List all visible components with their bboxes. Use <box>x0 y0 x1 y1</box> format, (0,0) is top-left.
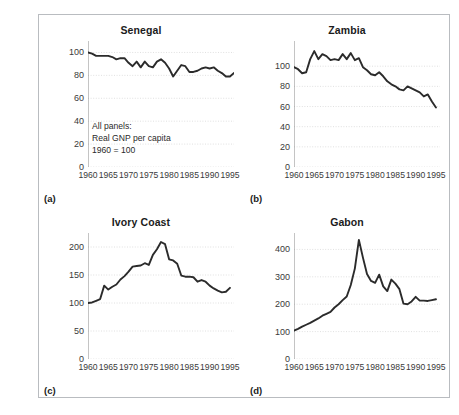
x-tick-label: 1960 <box>78 362 97 372</box>
panel-title-senegal: Senegal <box>38 24 244 36</box>
x-axis-labels-senegal: 19601965197019751980198519901995 <box>88 170 234 184</box>
panel-title-gabon: Gabon <box>244 216 450 228</box>
y-tick-label: 200 <box>58 242 84 252</box>
x-tick-label: 1995 <box>220 362 239 372</box>
y-tick-label: 100 <box>264 327 290 337</box>
x-tick-label: 1975 <box>139 170 158 180</box>
x-tick-label: 1985 <box>180 170 199 180</box>
y-axis-labels-zambia: 020406080100 <box>260 41 290 167</box>
x-tick-label: 1965 <box>305 170 324 180</box>
data-series-line <box>294 51 436 107</box>
panel-tag-a: (a) <box>44 193 56 204</box>
panel-ivory-coast: Ivory Coast 050100150200 196019651970197… <box>38 206 244 398</box>
y-tick-label: 60 <box>264 102 290 112</box>
x-tick-label: 1980 <box>366 170 385 180</box>
x-tick-label: 1975 <box>345 362 364 372</box>
x-tick-label: 1985 <box>180 362 199 372</box>
y-tick-label: 60 <box>58 93 84 103</box>
x-tick-label: 1960 <box>78 170 97 180</box>
panel-gabon: Gabon 0100200300400 19601965197019751980… <box>244 206 450 398</box>
x-tick-label: 1990 <box>200 362 219 372</box>
x-tick-label: 1980 <box>160 170 179 180</box>
y-tick-label: 400 <box>264 244 290 254</box>
x-tick-label: 1975 <box>139 362 158 372</box>
x-tick-label: 1960 <box>284 362 303 372</box>
x-tick-label: 1970 <box>325 170 344 180</box>
x-axis-labels-ivory-coast: 19601965197019751980198519901995 <box>88 362 234 376</box>
x-axis-labels-gabon: 19601965197019751980198519901995 <box>294 362 440 376</box>
x-tick-label: 1970 <box>119 170 138 180</box>
plot-area-ivory-coast <box>88 233 234 359</box>
y-tick-label: 40 <box>58 116 84 126</box>
x-tick-label: 1995 <box>220 170 239 180</box>
x-tick-label: 1965 <box>305 362 324 372</box>
y-tick-label: 20 <box>58 139 84 149</box>
x-tick-label: 1990 <box>406 362 425 372</box>
x-tick-label: 1995 <box>426 170 445 180</box>
x-tick-label: 1960 <box>284 170 303 180</box>
x-tick-label: 1980 <box>160 362 179 372</box>
x-tick-label: 1965 <box>99 362 118 372</box>
data-series-line <box>294 240 436 331</box>
x-tick-label: 1990 <box>200 170 219 180</box>
y-tick-label: 50 <box>58 326 84 336</box>
plot-area-gabon <box>294 233 440 359</box>
panel-zambia: Zambia 020406080100 19601965197019751980… <box>244 14 450 206</box>
panel-senegal: Senegal 020406080100 1960196519701975198… <box>38 14 244 206</box>
panel-annotation: All panels: Real GNP per capita 1960 = 1… <box>92 120 171 157</box>
x-tick-label: 1965 <box>99 170 118 180</box>
panel-title-ivory-coast: Ivory Coast <box>38 216 244 228</box>
data-series-line <box>88 52 234 76</box>
panel-title-zambia: Zambia <box>244 24 450 36</box>
x-tick-label: 1980 <box>366 362 385 372</box>
y-tick-label: 300 <box>264 272 290 282</box>
x-axis-labels-zambia: 19601965197019751980198519901995 <box>294 170 440 184</box>
figure-container: Senegal 020406080100 1960196519701975198… <box>0 0 459 415</box>
plot-area-zambia <box>294 41 440 167</box>
x-tick-label: 1970 <box>325 362 344 372</box>
panel-tag-c: (c) <box>44 385 56 396</box>
y-tick-label: 100 <box>58 47 84 57</box>
x-tick-label: 1995 <box>426 362 445 372</box>
x-tick-label: 1975 <box>345 170 364 180</box>
y-tick-label: 150 <box>58 270 84 280</box>
y-axis-labels-ivory-coast: 050100150200 <box>54 233 84 359</box>
x-tick-label: 1990 <box>406 170 425 180</box>
x-tick-label: 1985 <box>386 362 405 372</box>
y-tick-label: 20 <box>264 142 290 152</box>
y-tick-label: 80 <box>58 70 84 80</box>
panel-tag-b: (b) <box>250 193 262 204</box>
y-axis-labels-senegal: 020406080100 <box>54 41 84 167</box>
y-tick-label: 40 <box>264 122 290 132</box>
x-tick-label: 1970 <box>119 362 138 372</box>
y-tick-label: 100 <box>58 298 84 308</box>
x-tick-label: 1985 <box>386 170 405 180</box>
y-axis-labels-gabon: 0100200300400 <box>260 233 290 359</box>
y-tick-label: 100 <box>264 61 290 71</box>
y-tick-label: 200 <box>264 299 290 309</box>
panel-tag-d: (d) <box>250 385 262 396</box>
y-tick-label: 80 <box>264 81 290 91</box>
data-series-line <box>88 242 230 303</box>
